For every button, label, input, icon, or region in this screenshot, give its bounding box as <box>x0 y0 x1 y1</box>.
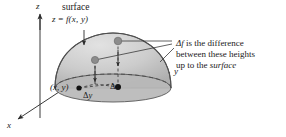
delta-x-label: Δx <box>110 82 119 92</box>
annotation-line-3-italic: surface <box>210 60 237 70</box>
height-difference-annotation: Δf is the difference between these heigh… <box>176 38 255 71</box>
annotation-line-2: between these heights <box>176 49 255 60</box>
annotation-line-1-rest: is the difference <box>184 38 244 48</box>
surface-equation-func: f(x, y) <box>66 14 88 24</box>
figure-canvas: z y x surface z = f(x, y) Δf is the diff… <box>0 0 286 137</box>
z-axis-label: z <box>36 1 40 11</box>
surface-callout-title: surface <box>62 2 89 13</box>
surface-equation: z = f(x, y) <box>52 14 88 24</box>
annotation-line-3-prefix: up to the <box>176 60 210 70</box>
delta-y-var: y <box>88 90 92 100</box>
delta-y-label: Δy <box>83 91 92 101</box>
delta-f-symbol: Δf <box>176 38 184 48</box>
annotation-line-1: Δf is the difference <box>176 38 255 49</box>
point-xy-label: (x, y) <box>50 82 68 92</box>
surface-dome <box>55 33 171 102</box>
delta-x-var: x <box>115 81 119 91</box>
annotation-line-3: up to the surface <box>176 60 255 71</box>
x-axis-label: x <box>7 120 11 130</box>
